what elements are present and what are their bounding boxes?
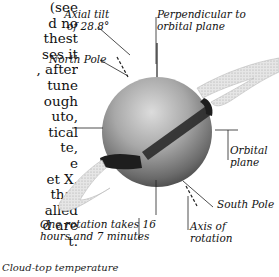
label-line: Axis of	[190, 221, 232, 233]
label-line: rotation	[190, 233, 232, 245]
band-left	[100, 154, 142, 169]
label-perpendicular: Perpendicular to orbital plane	[157, 9, 246, 32]
label-orbital-plane: Orbital plane	[230, 145, 268, 168]
ring-left	[59, 160, 110, 211]
label-south-pole: South Pole	[217, 199, 274, 211]
planet	[100, 77, 213, 187]
label-rotation: One rotation takes 16 hours and 7 minute…	[40, 219, 138, 242]
label-line: hours and 7 minutes	[40, 231, 138, 243]
label-line: of 28.8°	[61, 21, 109, 33]
ring-right	[197, 58, 279, 106]
label-line: plane	[230, 157, 268, 169]
label-north-pole: North Pole	[49, 54, 106, 66]
label-line: One rotation takes 16	[40, 219, 138, 231]
label-axial-tilt: Axial tilt of 28.8°	[61, 9, 109, 32]
label-axis-of-rotation: Axis of rotation	[190, 221, 232, 244]
label-line: Axial tilt	[61, 9, 109, 21]
label-line: Orbital	[230, 145, 268, 157]
label-line: Perpendicular to	[157, 9, 246, 21]
label-line: orbital plane	[157, 21, 246, 33]
caption-cloud-top-temperature: Cloud-top temperature	[2, 262, 118, 273]
